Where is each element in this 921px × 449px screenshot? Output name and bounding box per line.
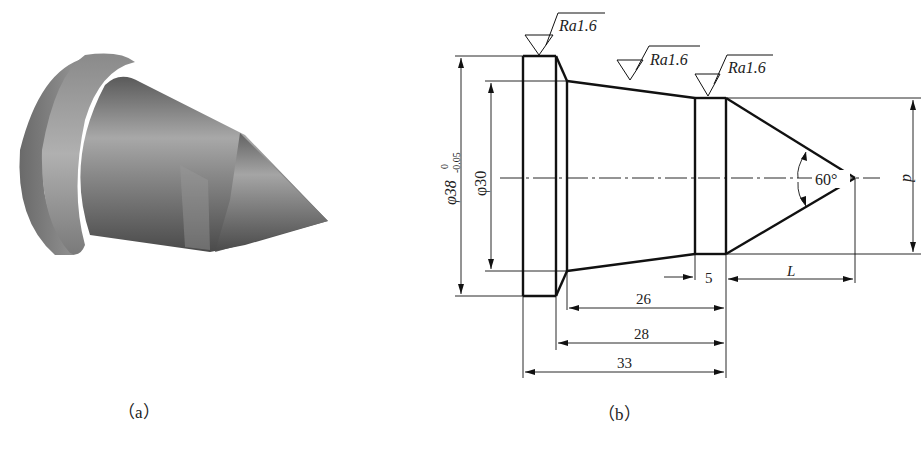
- dimension-lines: [461, 58, 913, 372]
- svg-text:φ38: φ38: [442, 180, 460, 205]
- extension-lines: [455, 56, 921, 378]
- caption-b: （b）: [598, 400, 641, 425]
- ra-label-3: Ra1.6: [727, 59, 766, 76]
- svg-text:0: 0: [439, 164, 450, 169]
- engineering-drawing: Ra1.6 Ra1.6 Ra1.6 φ38 0 -0.05 φ30 d 60° …: [0, 0, 921, 449]
- arrowheads: [458, 58, 916, 375]
- dim-26: 26: [636, 291, 652, 307]
- dim-33: 33: [617, 355, 632, 371]
- part-outline: [523, 56, 855, 296]
- dim-L: L: [786, 263, 795, 279]
- phi38-label: φ38 0 -0.05: [439, 152, 462, 205]
- d-label: d: [900, 174, 917, 183]
- ra-label-1: Ra1.6: [558, 17, 597, 34]
- angle-label: 60°: [815, 171, 837, 188]
- svg-text:-0.05: -0.05: [451, 152, 462, 173]
- dim-5: 5: [705, 270, 713, 286]
- dim-28: 28: [634, 326, 649, 342]
- phi30-label: φ30: [472, 171, 490, 196]
- panel-b-drawing: Ra1.6 Ra1.6 Ra1.6 φ38 0 -0.05 φ30 d 60° …: [0, 0, 921, 449]
- ra-label-2: Ra1.6: [649, 51, 688, 68]
